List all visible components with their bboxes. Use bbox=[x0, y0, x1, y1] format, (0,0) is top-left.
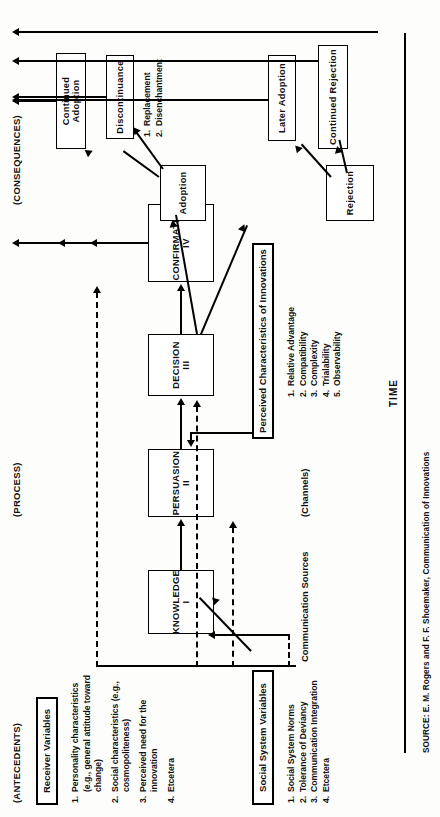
arrowhead-right bbox=[177, 519, 185, 526]
perceived-characteristic-number: 1. bbox=[286, 386, 298, 397]
discontinuance-type-number: 2. bbox=[154, 126, 166, 137]
social-system-text: Social System Norms bbox=[286, 704, 298, 792]
perceived-characteristic-item: 2. Compatibility bbox=[298, 227, 310, 397]
social-system-text: Tolerance of Deviancy bbox=[298, 701, 310, 792]
connector-characteristics-elbow bbox=[190, 432, 192, 440]
section-label-consequences: (CONSEQUENCES) bbox=[12, 115, 23, 205]
connector-persuasion-decision bbox=[180, 404, 182, 449]
social-system-item: 1. Social System Norms bbox=[286, 643, 298, 803]
channels-label: (Channels) bbox=[300, 469, 311, 517]
stage-box-persuasion: PERSUASION II bbox=[148, 449, 214, 517]
outcome-box-continued-adoption: Continued Adoption bbox=[56, 53, 86, 149]
outcome-box-later-adoption: Later Adoption bbox=[268, 55, 296, 141]
social-system-number: 4. bbox=[321, 792, 333, 803]
receiver-variable-number: 2. bbox=[110, 792, 133, 803]
connector-knowledge-persuasion bbox=[180, 525, 182, 570]
time-axis-line bbox=[404, 33, 406, 753]
arrowhead-right bbox=[177, 284, 185, 291]
perceived-characteristic-text: Complexity bbox=[309, 340, 321, 386]
social-system-item: 2. Tolerance of Deviancy bbox=[298, 643, 310, 803]
arrowhead-right bbox=[93, 286, 101, 293]
perceived-characteristic-number: 3. bbox=[309, 386, 321, 397]
stage-name: PERSUASION bbox=[171, 451, 181, 515]
perceived-characteristic-item: 4. Trialability bbox=[321, 227, 333, 397]
outcome-label: Rejection bbox=[345, 171, 355, 216]
arrowhead-right bbox=[229, 521, 237, 528]
section-label-process: (PROCESS) bbox=[12, 462, 23, 517]
exit-arrow-confirmation bbox=[18, 242, 148, 244]
communication-sources-label: Communication Sources bbox=[300, 552, 311, 662]
arrowhead-left bbox=[187, 440, 195, 447]
exit-arrow-right-edge bbox=[18, 31, 378, 33]
stage-name: KNOWLEDGE bbox=[171, 570, 181, 634]
diagram-canvas: (ANTECEDENTS) (PROCESS) (CONSEQUENCES) R… bbox=[0, 0, 440, 817]
connector-characteristics-riser bbox=[190, 432, 254, 434]
dashed-feed-confirmation bbox=[96, 292, 98, 667]
receiver-variable-item: 1. Personality characteristics (e.g., ge… bbox=[70, 673, 105, 803]
connector-decision-confirmation bbox=[180, 290, 182, 334]
arrowhead-up bbox=[12, 29, 19, 37]
outcome-label: Continued Adoption bbox=[61, 54, 82, 148]
social-system-item: 4. Etcetera bbox=[321, 643, 333, 803]
exit-arrow-continued-rejection bbox=[18, 60, 318, 62]
perceived-characteristic-item: 1. Relative Advantage bbox=[286, 227, 298, 397]
outcome-box-discontinuance: Discontinuance bbox=[106, 55, 134, 139]
receiver-variable-item: 2. Social characteristics (e.g., cosmopo… bbox=[110, 673, 133, 803]
stage-numeral: I bbox=[181, 600, 191, 603]
arrowhead-up bbox=[12, 240, 19, 248]
discontinuance-type-item: 1. Replacement bbox=[142, 27, 154, 137]
section-label-antecedents: (ANTECEDENTS) bbox=[12, 723, 23, 803]
stage-numeral: II bbox=[181, 480, 191, 486]
receiver-variable-text: Etcetera bbox=[166, 758, 178, 792]
receiver-variable-item: 4. Etcetera bbox=[166, 673, 178, 803]
exit-arrow-later-adoption bbox=[18, 99, 268, 101]
time-axis-label: TIME bbox=[388, 379, 399, 407]
arrowhead-right bbox=[177, 398, 185, 405]
discontinuance-type-number: 1. bbox=[142, 126, 154, 137]
arrowhead-right bbox=[193, 400, 201, 407]
figure-page: (ANTECEDENTS) (PROCESS) (CONSEQUENCES) R… bbox=[0, 0, 440, 817]
social-system-number: 2. bbox=[298, 792, 310, 803]
receiver-variable-number: 3. bbox=[138, 792, 161, 803]
outcome-box-rejection: Rejection bbox=[326, 165, 374, 221]
perceived-characteristic-item: 5. Observability bbox=[332, 227, 344, 397]
stage-box-decision: DECISION III bbox=[148, 334, 214, 396]
perceived-characteristic-number: 5. bbox=[332, 386, 344, 397]
stage-name: DECISION bbox=[171, 341, 181, 388]
perceived-characteristic-text: Trialability bbox=[321, 343, 333, 386]
social-system-number: 3. bbox=[309, 792, 321, 803]
dashed-feed-decision bbox=[196, 406, 198, 667]
outcome-label: Discontinuance bbox=[115, 60, 125, 133]
arrowhead-up-midpoint bbox=[58, 240, 65, 248]
receiver-variable-number: 4. bbox=[166, 792, 178, 803]
outcome-label: Later Adoption bbox=[277, 63, 287, 133]
discontinuance-type-text: Disenchantment bbox=[154, 59, 166, 126]
arrowhead-up-midpoint bbox=[90, 240, 97, 248]
social-system-variables-heading: Social System Variables bbox=[252, 670, 274, 805]
arrowhead-up bbox=[12, 58, 19, 66]
exit-arrow-discontinuance bbox=[18, 96, 106, 98]
receiver-variable-item: 3. Perceived need for the innovation bbox=[138, 673, 161, 803]
receiver-variable-number: 1. bbox=[70, 792, 105, 803]
dashed-feed-persuasion bbox=[232, 527, 234, 667]
social-system-number: 1. bbox=[286, 792, 298, 803]
outcome-label: Adoption bbox=[178, 171, 188, 214]
perceived-characteristic-item: 3. Complexity bbox=[309, 227, 321, 397]
stage-numeral: III bbox=[181, 360, 191, 369]
outcome-box-continued-rejection: Continued Rejection bbox=[318, 45, 348, 149]
discontinuance-type-item: 2. Disenchantment bbox=[154, 27, 166, 137]
outcome-box-adoption: Adoption bbox=[160, 165, 206, 221]
perceived-characteristic-text: Relative Advantage bbox=[286, 307, 298, 386]
outcome-label: Continued Rejection bbox=[328, 49, 338, 145]
receiver-variable-text: Perceived need for the innovation bbox=[138, 673, 161, 792]
receiver-variables-heading: Receiver Variables bbox=[36, 697, 58, 805]
perceived-characteristics-heading: Perceived Characteristics of Innovations bbox=[252, 243, 274, 439]
perceived-characteristic-text: Compatibility bbox=[298, 332, 310, 386]
social-system-item: 3. Communication Integration bbox=[309, 643, 321, 803]
arrowhead-up bbox=[12, 97, 19, 105]
social-system-text: Etcetera bbox=[321, 758, 333, 792]
perceived-characteristic-number: 4. bbox=[321, 386, 333, 397]
receiver-variable-text: Social characteristics (e.g., cosmopolit… bbox=[110, 673, 133, 792]
receiver-variable-text: Personality characteristics (e.g., gener… bbox=[70, 673, 105, 792]
perceived-characteristic-text: Observability bbox=[332, 332, 344, 386]
